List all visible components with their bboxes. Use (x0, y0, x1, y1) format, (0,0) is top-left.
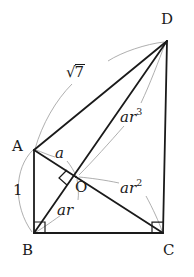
segment-group (34, 41, 167, 233)
vertex-label-a: A (12, 139, 23, 154)
diagram-canvas (0, 0, 194, 277)
length-label-side-ab: 1 (13, 183, 23, 198)
length-label-seg-oc-base: ar (120, 179, 136, 197)
length-label-seg-bo: ar (57, 201, 73, 218)
vertex-label-b: B (22, 243, 33, 258)
vertex-label-o: O (75, 180, 87, 195)
segment-bd (34, 41, 167, 233)
leader-arc-group (18, 42, 165, 232)
vertex-label-d: D (161, 12, 173, 27)
length-label-seg-od-exponent: 3 (136, 106, 142, 117)
length-label-seg-od-base: ar (120, 108, 136, 126)
length-label-seg-ao: a (55, 146, 64, 161)
length-label-seg-oc: ar2 (120, 179, 142, 196)
length-label-seg-oc-exponent: 2 (136, 177, 142, 188)
length-label-seg-bo-base: ar (57, 201, 73, 219)
leader-arc-diag-ad-lower (35, 84, 72, 149)
length-label-seg-od: ar3 (120, 108, 142, 125)
leader-arc-seg-oc-right (146, 196, 162, 231)
length-label-diag-ad-value: 7 (75, 64, 86, 81)
leader-arc-seg-od-lower (79, 126, 124, 175)
geometry-figure: A B C D O 1 a ar ar2 ar3 √7 (0, 0, 194, 277)
right-angle-at-o (59, 170, 67, 185)
vertex-label-c: C (163, 243, 174, 258)
segment-ad (34, 41, 167, 150)
segment-cd (163, 41, 167, 233)
length-label-diag-ad: √7 (66, 64, 85, 81)
